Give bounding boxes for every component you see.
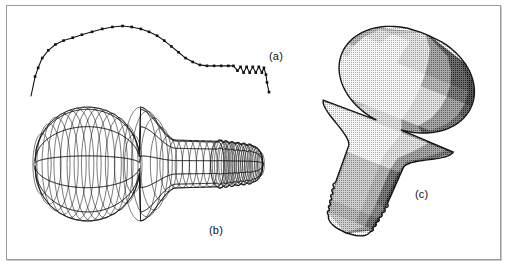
profile-data-point — [71, 36, 74, 39]
profile-data-point — [232, 65, 235, 68]
profile-curve-markers — [34, 25, 270, 94]
panel-label-c: (c) — [415, 188, 428, 200]
profile-data-point — [62, 39, 65, 42]
profile-data-point — [47, 49, 50, 52]
panel-shaded-render — [307, 18, 507, 262]
profile-data-point — [101, 28, 104, 31]
profile-data-point — [54, 43, 57, 46]
shaded-facets — [307, 18, 507, 262]
figure-frame: (a) (b) — [6, 5, 501, 260]
profile-curve-line — [31, 26, 269, 96]
profile-data-point — [91, 31, 94, 34]
profile-data-point — [251, 66, 254, 69]
profile-curve-group — [31, 25, 270, 96]
wireframe-cross-section — [97, 113, 128, 215]
halftone-overlay — [307, 18, 507, 262]
profile-data-point — [156, 34, 159, 37]
figure-root: (a) (b) — [0, 0, 508, 267]
profile-data-point — [34, 75, 37, 78]
profile-data-point — [121, 25, 124, 28]
profile-data-point — [265, 73, 268, 76]
wireframe-meridian — [35, 164, 263, 212]
profile-data-point — [254, 71, 257, 74]
profile-data-point — [242, 71, 245, 74]
profile-data-point — [261, 71, 264, 74]
profile-data-point — [239, 66, 242, 69]
profile-data-point — [148, 31, 151, 34]
wireframe-cross-section — [131, 111, 163, 217]
shaded-bulb-render — [307, 18, 507, 262]
panel-label-b: (b) — [209, 224, 223, 236]
profile-data-point — [227, 65, 230, 68]
profile-data-point — [191, 61, 194, 64]
profile-data-point — [220, 65, 223, 68]
profile-data-point — [37, 67, 40, 70]
profile-data-point — [140, 28, 143, 31]
profile-data-point — [177, 51, 180, 54]
profile-data-point — [248, 71, 251, 74]
panel-label-a: (a) — [269, 50, 283, 62]
profile-data-point — [236, 69, 239, 72]
profile-data-point — [258, 66, 261, 69]
profile-data-point — [266, 81, 269, 84]
panel-wireframe-model — [25, 102, 273, 230]
profile-data-point — [41, 57, 44, 60]
wireframe-cross-section — [74, 107, 108, 221]
wireframe-meridian — [35, 164, 263, 212]
profile-data-point — [206, 65, 209, 68]
profile-data-point — [213, 65, 216, 68]
profile-data-point — [163, 39, 166, 42]
profile-data-point — [130, 26, 133, 29]
wireframe-mesh — [33, 107, 265, 221]
wireframe-cross-section — [67, 107, 101, 221]
profile-data-point — [199, 64, 202, 67]
profile-data-point — [184, 57, 187, 60]
profile-data-point — [81, 33, 84, 36]
profile-data-point — [170, 45, 173, 48]
wireframe-render — [25, 102, 273, 230]
profile-data-point — [268, 91, 271, 94]
wireframe-cross-section — [48, 113, 78, 214]
profile-data-point — [245, 66, 248, 69]
panel-profile-curve — [15, 18, 277, 106]
profile-data-point — [263, 67, 266, 70]
profile-curve-plot — [15, 18, 277, 106]
profile-data-point — [111, 26, 114, 29]
